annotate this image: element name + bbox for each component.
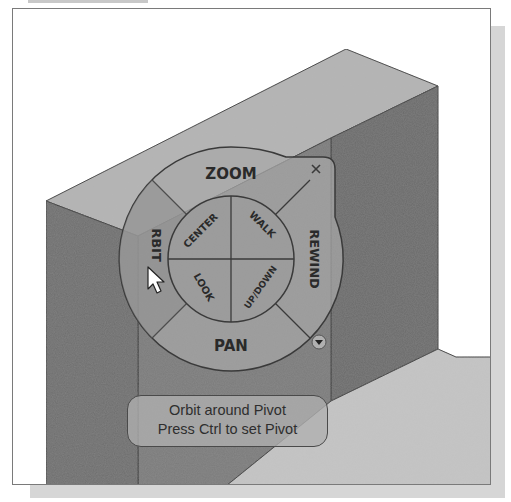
close-icon[interactable] <box>307 160 325 178</box>
tooltip-line-1: Orbit around Pivot <box>128 401 327 420</box>
steering-wheel[interactable]: ZOOM REWIND PAN RBIT CENTER WALK LOOK UP… <box>119 147 343 371</box>
frame-shadow-right <box>491 26 505 498</box>
frame-shadow-bottom <box>30 485 505 498</box>
tooltip-line-2: Press Ctrl to set Pivot <box>128 420 327 439</box>
caption-bar <box>28 0 148 3</box>
box-right-face <box>331 86 438 401</box>
orbit-tooltip: Orbit around Pivot Press Ctrl to set Piv… <box>127 395 328 447</box>
wheel-menu-dropdown-icon[interactable] <box>312 335 326 349</box>
